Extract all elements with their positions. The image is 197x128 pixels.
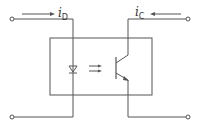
light-coupling-arrows-icon	[89, 65, 102, 73]
optocoupler-diagram: iD iC	[0, 0, 197, 128]
input-wire	[14, 19, 73, 117]
input-top-terminal	[10, 17, 14, 21]
output-top-terminal	[186, 17, 190, 21]
output-current-arrow	[150, 12, 181, 16]
input-current-arrow	[22, 12, 55, 16]
output-top-wire	[128, 19, 186, 55]
output-bottom-wire	[128, 80, 186, 117]
input-bottom-terminal	[10, 115, 14, 119]
output-bottom-terminal	[186, 115, 190, 119]
output-current-label: iC	[135, 5, 145, 21]
input-current-label: iD	[58, 6, 68, 22]
package-box	[50, 38, 152, 95]
phototransistor-icon	[116, 55, 129, 81]
